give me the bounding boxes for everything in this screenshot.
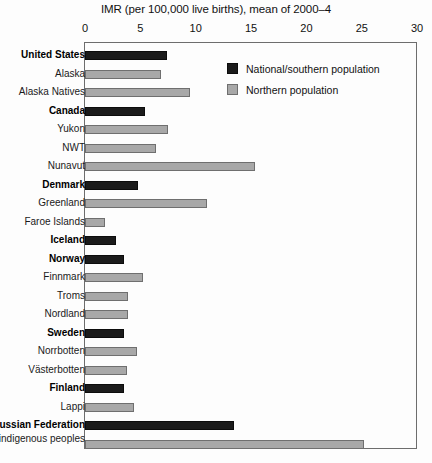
bar-national xyxy=(85,329,124,338)
row-label: Canada xyxy=(0,106,85,117)
x-tick-label-10: 10 xyxy=(190,22,202,34)
bar-northern xyxy=(85,440,364,449)
imr-bar-chart: IMR (per 100,000 live births), mean of 2… xyxy=(0,0,432,463)
chart-row: Nordland xyxy=(0,309,432,329)
row-label: Sweden xyxy=(0,328,85,339)
bar-northern xyxy=(85,347,137,356)
chart-row: Norrbotten xyxy=(0,346,432,366)
row-label: United States xyxy=(0,50,85,61)
row-label: Alaska xyxy=(0,69,85,80)
bar-northern xyxy=(85,199,207,208)
legend-item: Northern population xyxy=(227,79,417,100)
bar-northern xyxy=(85,273,143,282)
row-label: Lappi xyxy=(0,402,85,413)
x-tick-label-0: 0 xyxy=(82,22,88,34)
legend-label: National/southern population xyxy=(246,63,380,75)
bar-northern xyxy=(85,88,190,97)
bar-national xyxy=(85,236,116,245)
row-label: Finland xyxy=(0,383,85,394)
row-label: Finnmark xyxy=(0,272,85,283)
legend-label: Northern population xyxy=(246,84,338,96)
bar-northern xyxy=(85,366,127,375)
bar-northern xyxy=(85,125,168,134)
row-label: Troms xyxy=(0,291,85,302)
chart-row: Finnmark xyxy=(0,272,432,292)
x-tick-label-25: 25 xyxy=(356,22,368,34)
chart-row: Yukon xyxy=(0,124,432,144)
bar-rows: United StatesAlaskaAlaska NativesCanadaY… xyxy=(0,42,432,449)
row-label: Norway xyxy=(0,254,85,265)
row-label: Alaska Natives xyxy=(0,87,85,98)
chart-row: Finland xyxy=(0,383,432,403)
chart-row: Nunavut xyxy=(0,161,432,181)
bar-northern xyxy=(85,218,105,227)
bar-northern xyxy=(85,403,134,412)
row-label: Yukon xyxy=(0,124,85,135)
row-label: Russian Federation xyxy=(0,420,85,431)
row-label: NWT xyxy=(0,143,85,154)
legend-swatch-northern xyxy=(227,84,238,95)
x-tick-label-15: 15 xyxy=(245,22,257,34)
bar-national xyxy=(85,384,124,393)
row-label: Västerbotten xyxy=(0,365,85,376)
bar-northern xyxy=(85,310,128,319)
bar-northern xyxy=(85,292,128,301)
chart-row: Iceland xyxy=(0,235,432,255)
chart-row: Northern indigenous peoples xyxy=(0,439,432,459)
chart-legend: National/southern populationNorthern pop… xyxy=(227,58,417,100)
row-label: Faroe Islands xyxy=(0,217,85,228)
row-label: Nordland xyxy=(0,309,85,320)
x-tick-label-5: 5 xyxy=(137,22,143,34)
legend-swatch-national xyxy=(227,63,238,74)
x-tick-label-30: 30 xyxy=(411,22,423,34)
row-label: Nunavut xyxy=(0,161,85,172)
x-axis-tick-labels: 051015202530 xyxy=(0,22,432,38)
chart-row: Greenland xyxy=(0,198,432,218)
bar-northern xyxy=(85,162,255,171)
row-label: Northern indigenous peoples xyxy=(0,434,85,445)
row-label: Iceland xyxy=(0,235,85,246)
bar-national xyxy=(85,51,167,60)
bar-national xyxy=(85,181,138,190)
bar-national xyxy=(85,107,145,116)
legend-item: National/southern population xyxy=(227,58,417,79)
bar-national xyxy=(85,421,234,430)
bar-northern xyxy=(85,70,161,79)
row-label: Norrbotten xyxy=(0,346,85,357)
chart-title: IMR (per 100,000 live births), mean of 2… xyxy=(0,3,432,15)
row-label: Greenland xyxy=(0,198,85,209)
row-label: Denmark xyxy=(0,180,85,191)
bar-national xyxy=(85,255,124,264)
x-tick-label-20: 20 xyxy=(300,22,312,34)
bar-northern xyxy=(85,144,156,153)
